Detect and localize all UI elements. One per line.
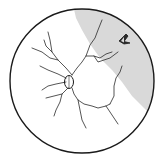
detached-retina-region (73, 5, 160, 120)
fundus-diagram (0, 0, 164, 162)
